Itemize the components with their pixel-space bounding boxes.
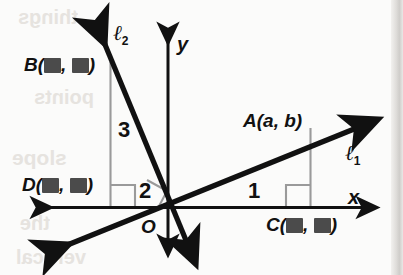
point-label-a-prefix: A(: [243, 110, 263, 131]
point-label-b-suffix: ): [89, 54, 95, 75]
point-label-d: D(, ): [22, 174, 93, 196]
point-label-b: B(, ): [24, 54, 95, 76]
point-label-d-x-redacted: [42, 178, 59, 193]
figure-canvas: things points slope the vertical: [0, 0, 403, 275]
point-label-d-comma: ,: [59, 174, 70, 195]
line-2-label-ell: ℓ: [113, 21, 122, 45]
line-2-label-subscript: 2: [122, 34, 129, 48]
point-label-c-prefix: C(: [266, 214, 286, 235]
geometry-figure: [0, 0, 403, 275]
point-label-b-prefix: B(: [24, 54, 44, 75]
point-label-c: C(, ): [266, 214, 337, 236]
point-label-a-comma: ,: [274, 110, 285, 131]
slope-number-three: 3: [118, 117, 130, 143]
page-scan-edge: [391, 0, 403, 275]
point-label-d-suffix: ): [87, 174, 93, 195]
right-angle-marker-c: [286, 185, 311, 208]
y-axis-label: y: [177, 33, 188, 56]
point-label-a: A(a, b): [243, 110, 302, 132]
line-1-label-subscript: 1: [354, 154, 361, 168]
point-label-b-x-redacted: [44, 58, 61, 73]
right-angle-marker-d: [111, 185, 136, 208]
point-label-c-y-redacted: [314, 218, 331, 233]
line-1-label: ℓ1: [345, 141, 360, 168]
point-label-d-y-redacted: [70, 178, 87, 193]
slope-number-one: 1: [248, 178, 260, 204]
point-label-a-y: b: [284, 110, 296, 131]
point-label-a-x: a: [263, 110, 274, 131]
point-label-b-y-redacted: [72, 58, 89, 73]
line-1-label-ell: ℓ: [345, 141, 354, 165]
origin-label: O: [141, 216, 156, 238]
slope-number-two: 2: [139, 178, 151, 204]
point-label-c-x-redacted: [286, 218, 303, 233]
line-2-label: ℓ2: [113, 21, 128, 48]
point-label-c-suffix: ): [331, 214, 337, 235]
point-label-c-comma: ,: [303, 214, 314, 235]
point-label-d-prefix: D(: [22, 174, 42, 195]
point-label-a-suffix: ): [296, 110, 302, 131]
x-axis-label: x: [348, 186, 359, 209]
point-label-b-comma: ,: [61, 54, 72, 75]
